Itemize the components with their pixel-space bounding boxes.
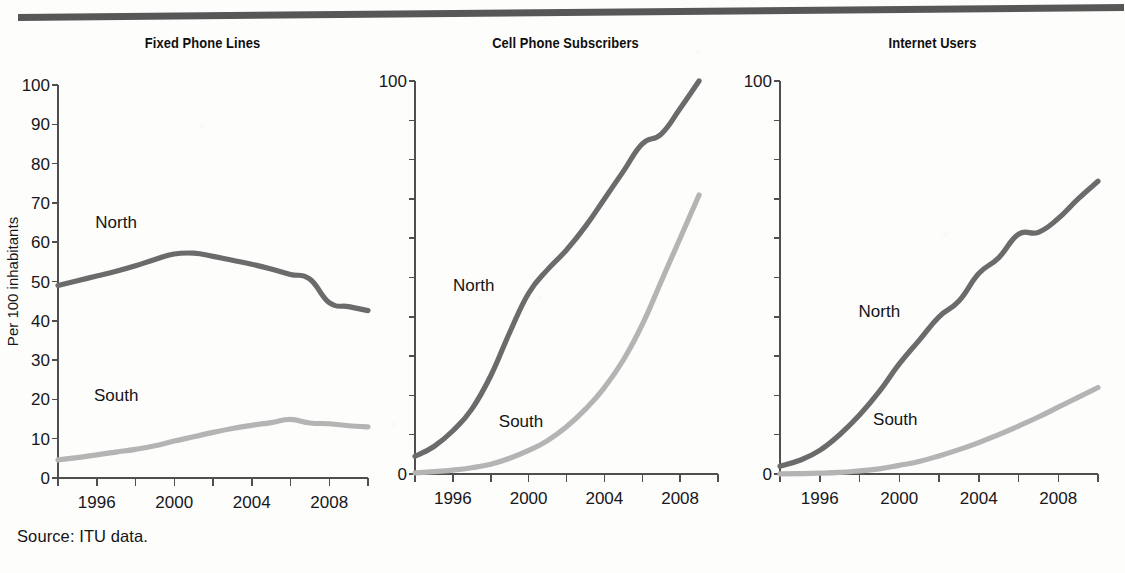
chart-panel-cell-phone-subscribers: Cell Phone Subscribers 01001996200020042…	[378, 30, 753, 530]
y-axis-tick-label: 100	[744, 72, 772, 91]
y-axis-tick-label: 80	[31, 155, 50, 174]
y-axis-tick-label: 0	[41, 469, 50, 488]
x-axis-tick-label: 2004	[233, 493, 271, 512]
y-axis-tick-label: 90	[31, 115, 50, 134]
top-rule-bar	[18, 4, 1124, 21]
series-line-south	[780, 388, 1098, 474]
x-axis-tick-label: 2008	[1039, 489, 1077, 508]
series-line-north	[58, 253, 368, 311]
chart-panel-internet-users: Internet Users 01001996200020042008North…	[740, 30, 1125, 530]
top-divider-rule	[0, 0, 1125, 34]
series-annotation-south: South	[873, 410, 917, 429]
series-annotation-north: North	[859, 302, 901, 321]
chart-panel-fixed-phone-lines: Fixed Phone Lines 0102030405060708090100…	[0, 30, 405, 530]
series-line-south	[58, 419, 368, 459]
series-line-north	[780, 181, 1098, 466]
y-axis-title: Per 100 inhabitants	[4, 217, 21, 346]
plot-area-fixed-phone-lines: 01020304050607080901001996200020042008No…	[0, 30, 405, 530]
y-axis-tick-label: 0	[763, 465, 772, 484]
y-axis-tick-label: 40	[31, 312, 50, 331]
y-axis-tick-label: 10	[31, 430, 50, 449]
x-axis-tick-label: 2004	[585, 489, 623, 508]
x-axis-tick-label: 2000	[510, 489, 548, 508]
y-axis-tick-label: 20	[31, 390, 50, 409]
x-axis-tick-label: 2004	[960, 489, 998, 508]
series-annotation-south: South	[499, 412, 543, 431]
y-axis-tick-label: 30	[31, 351, 50, 370]
series-annotation-south: South	[94, 386, 138, 405]
x-axis-tick-label: 1996	[78, 493, 116, 512]
series-annotation-north: North	[95, 213, 137, 232]
x-axis-tick-label: 1996	[434, 489, 472, 508]
y-axis-tick-label: 70	[31, 194, 50, 213]
x-axis-tick-label: 2000	[880, 489, 918, 508]
y-axis-tick-label: 100	[22, 76, 50, 95]
y-axis-tick-label: 50	[31, 273, 50, 292]
series-annotation-north: North	[453, 276, 495, 295]
plot-area-cell-phone-subscribers: 01001996200020042008NorthSouth	[378, 30, 753, 530]
y-axis-tick-label: 60	[31, 233, 50, 252]
series-line-north	[415, 81, 699, 456]
x-axis-tick-label: 2008	[310, 493, 348, 512]
y-axis-tick-label: 0	[398, 465, 407, 484]
y-axis-tick-label: 100	[379, 72, 407, 91]
x-axis-tick-label: 2008	[661, 489, 699, 508]
x-axis-tick-label: 1996	[801, 489, 839, 508]
plot-area-internet-users: 01001996200020042008NorthSouth	[740, 30, 1125, 530]
series-line-south	[415, 195, 699, 473]
source-note: Source: ITU data.	[17, 527, 148, 546]
x-axis-tick-label: 2000	[155, 493, 193, 512]
